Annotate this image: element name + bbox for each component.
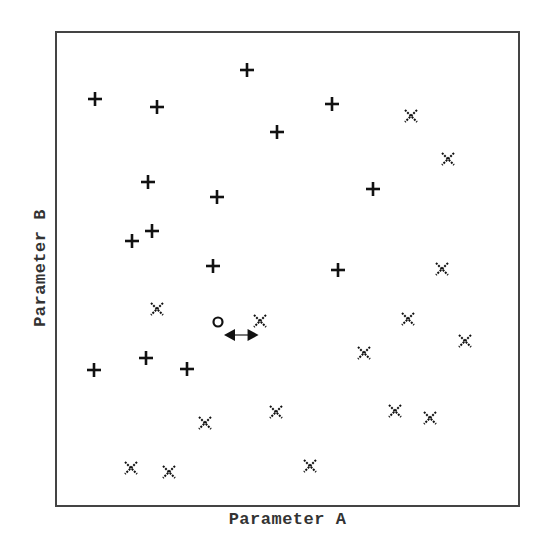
plot-area [55,31,520,507]
double-arrow-icon [224,327,259,348]
y-axis-label: Parameter B [31,209,50,327]
x-axis-label: Parameter A [55,510,520,529]
